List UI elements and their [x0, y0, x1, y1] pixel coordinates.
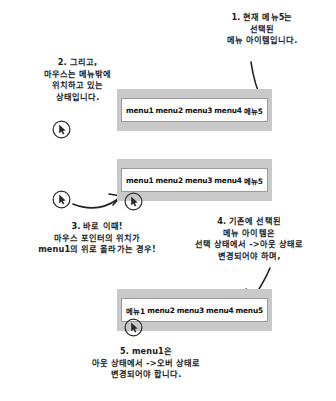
annotation-note-5: 5. menu1은 아웃 상태에서 ->오버 상태로 변경되어야 합니다. [46, 346, 246, 381]
menu-item-4[interactable]: menu4 [214, 176, 241, 185]
annotation-note-3: 3. 바로 이때! 마우스 포인터의 위치가 menu1의 위로 올라가는 경우… [12, 221, 182, 256]
menu-item-1[interactable]: menu1 [126, 176, 153, 185]
mouse-pointer-icon [124, 192, 143, 211]
menu-item-4[interactable]: menu4 [214, 106, 241, 115]
menu-item-5[interactable]: 메뉴5 [244, 175, 263, 186]
menu-item-3[interactable]: menu3 [185, 176, 212, 185]
cursor-outside-middle [52, 190, 71, 209]
mouse-pointer-icon [52, 120, 71, 139]
menu-item-4[interactable]: menu4 [206, 306, 233, 315]
cursor-outside-top [52, 120, 71, 139]
menu-item-1[interactable]: menu1 [126, 106, 153, 115]
diagram-canvas: 1. 현재 메뉴5는 선택된 메뉴 아이템입니다. 2. 그리고, 마우스는 메… [0, 0, 336, 401]
menu-item-3[interactable]: menu3 [177, 306, 204, 315]
menu-item-3[interactable]: menu3 [185, 106, 212, 115]
annotation-note-1: 1. 현재 메뉴5는 선택된 메뉴 아이템입니다. [192, 12, 332, 47]
menubar-top-items: menu1 menu2 menu3 menu4 메뉴5 [121, 98, 268, 122]
menubar-bottom-items: 메뉴1 menu2 menu3 menu4 menu5 [121, 298, 268, 322]
annotation-note-4: 4. 기존에 선택된 메뉴 아이템은 선택 상태에서 ->아웃 상태로 변경되어… [163, 216, 335, 262]
cursor-over-menu1-middle [124, 192, 143, 211]
mouse-pointer-icon [52, 190, 71, 209]
menu-item-2[interactable]: menu2 [155, 176, 182, 185]
arrow-cursor-move-icon [73, 194, 121, 208]
menubar-middle-items: menu1 menu2 menu3 menu4 메뉴5 [121, 168, 268, 192]
menu-item-5[interactable]: menu5 [236, 306, 263, 315]
cursor-over-menu1-bottom [124, 318, 143, 337]
menubar-top: menu1 menu2 menu3 menu4 메뉴5 [117, 89, 272, 131]
mouse-pointer-icon [124, 318, 143, 337]
menu-item-2[interactable]: menu2 [155, 106, 182, 115]
menu-item-1[interactable]: 메뉴1 [126, 305, 145, 316]
menu-item-5[interactable]: 메뉴5 [244, 105, 263, 116]
menu-item-2[interactable]: menu2 [147, 306, 174, 315]
